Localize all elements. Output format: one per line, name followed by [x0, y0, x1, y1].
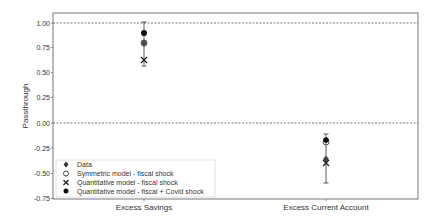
- data-points-excess-savings: [141, 22, 147, 66]
- y-tick-label: -0.75: [34, 195, 50, 202]
- y-tick-label: 0.75: [36, 44, 50, 51]
- legend-label: Quantitative model - fiscal + Covid shoc…: [77, 188, 204, 196]
- y-tick-label: 0.25: [36, 94, 50, 101]
- passthrough-chart: 1.00 0.75 0.50 0.25 0.00 -0.25 -0.50 -0.…: [0, 0, 439, 222]
- x-axis: Excess Savings Excess Current Account: [116, 199, 370, 212]
- legend-label: Data: [77, 161, 92, 168]
- y-tick-label: -0.25: [34, 145, 50, 152]
- filled-circle-marker: [323, 137, 329, 143]
- filled-circle-marker: [141, 30, 147, 36]
- y-tick-label: 1.00: [36, 20, 50, 27]
- y-tick-label: 0.00: [36, 120, 50, 127]
- data-points-excess-current-account: [323, 134, 329, 183]
- legend: Data Symmetric model - fiscal shock Quan…: [56, 160, 215, 197]
- legend-label: Symmetric model - fiscal shock: [77, 170, 174, 178]
- filled-circle-icon: [64, 189, 69, 194]
- x-tick-label: Excess Current Account: [283, 203, 369, 212]
- y-tick-label: -0.50: [34, 170, 50, 177]
- y-axis: 1.00 0.75 0.50 0.25 0.00 -0.25 -0.50 -0.…: [34, 20, 53, 203]
- x-tick-label: Excess Savings: [116, 203, 172, 212]
- y-axis-label: Passthrough: [21, 84, 30, 129]
- y-tick-label: 0.50: [36, 69, 50, 76]
- legend-label: Quantitative model - fiscal shock: [77, 179, 178, 187]
